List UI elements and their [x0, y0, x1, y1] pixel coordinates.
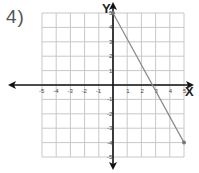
svg-text:-1: -1: [107, 96, 113, 102]
plotted-line: [111, 11, 186, 145]
svg-text:-2: -2: [107, 111, 113, 117]
svg-text:-4: -4: [107, 140, 113, 146]
svg-text:4: 4: [169, 88, 173, 94]
svg-text:-3: -3: [107, 125, 113, 131]
svg-text:-2: -2: [82, 88, 88, 94]
svg-text:-4: -4: [53, 88, 59, 94]
coordinate-plane: -5-4-3-2-11234554321-1-2-3-4-5 Y X: [0, 0, 199, 173]
svg-text:1: 1: [126, 88, 130, 94]
y-axis-label: Y: [102, 1, 111, 16]
x-axis-label: X: [185, 84, 194, 99]
svg-text:2: 2: [140, 88, 144, 94]
svg-text:-5: -5: [107, 154, 113, 160]
svg-text:-1: -1: [96, 88, 102, 94]
svg-text:-3: -3: [67, 88, 73, 94]
svg-text:-5: -5: [39, 88, 45, 94]
